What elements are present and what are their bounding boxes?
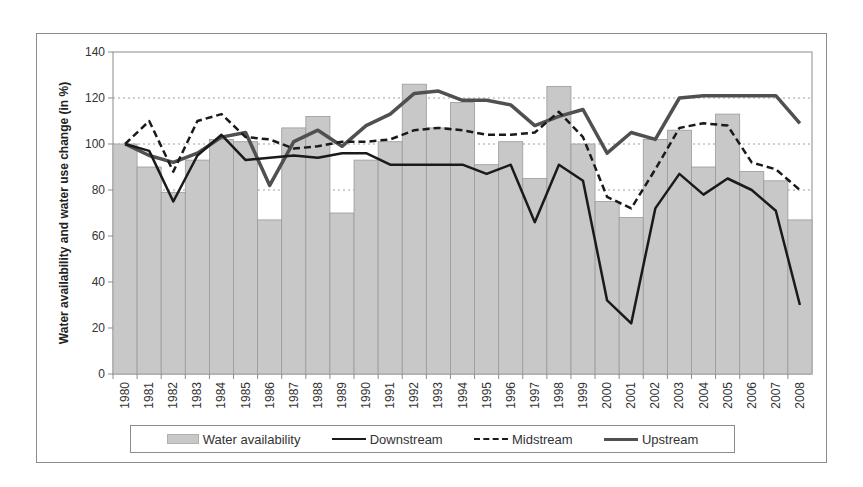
y-tick-label: 20	[92, 321, 106, 335]
bar-2001	[619, 218, 643, 374]
legend-label: Water availability	[203, 432, 301, 447]
x-tick-label: 1994	[456, 382, 470, 409]
x-tick-label: 2008	[793, 382, 807, 409]
legend-label: Upstream	[642, 432, 698, 447]
legend: Water availability Downstream Midstream …	[130, 425, 735, 453]
x-tick-label: 1989	[335, 382, 349, 409]
y-tick-label: 40	[92, 275, 106, 289]
dashed-line-swatch-icon	[474, 438, 508, 440]
x-tick-label: 2002	[648, 382, 662, 409]
legend-label: Downstream	[370, 432, 443, 447]
x-tick-label: 2000	[600, 382, 614, 409]
water-availability-bars	[113, 84, 812, 374]
bar-2005	[716, 114, 740, 374]
x-tick-label: 1985	[239, 382, 253, 409]
y-tick-label: 100	[85, 137, 105, 151]
bar-1995	[475, 165, 499, 374]
x-tick-label: 1980	[118, 382, 132, 409]
x-tick-label: 1987	[287, 382, 301, 409]
x-tick-label: 1996	[504, 382, 518, 409]
bar-2008	[788, 220, 812, 374]
bar-1985	[234, 142, 258, 374]
x-tick-label: 1984	[214, 382, 228, 409]
bar-1991	[378, 142, 402, 374]
combo-chart: 0204060801001201401980198119821983198419…	[0, 0, 863, 487]
x-tick-label: 1995	[480, 382, 494, 409]
x-tick-label: 1992	[407, 382, 421, 409]
bar-1994	[450, 103, 474, 374]
x-tick-label: 2004	[697, 382, 711, 409]
bar-2004	[691, 167, 715, 374]
bar-1992	[402, 84, 426, 374]
bar-2006	[740, 172, 764, 374]
x-tick-label: 2007	[769, 382, 783, 409]
x-tick-label: 1993	[431, 382, 445, 409]
x-tick-label: 2005	[721, 382, 735, 409]
y-tick-label: 60	[92, 229, 106, 243]
bar-1990	[354, 160, 378, 374]
x-tick-label: 1998	[552, 382, 566, 409]
legend-item-midstream: Midstream	[474, 432, 573, 447]
x-tick-label: 1983	[190, 382, 204, 409]
solid-line-swatch-icon	[332, 438, 366, 440]
legend-item-water-availability: Water availability	[167, 432, 301, 447]
bar-1996	[499, 142, 523, 374]
legend-label: Midstream	[512, 432, 573, 447]
bar-1980	[113, 144, 137, 374]
bar-swatch-icon	[167, 434, 199, 444]
bar-1998	[547, 87, 571, 375]
thick-line-swatch-icon	[604, 438, 638, 441]
legend-item-downstream: Downstream	[332, 432, 443, 447]
y-tick-label: 120	[85, 91, 105, 105]
x-tick-label: 1999	[576, 382, 590, 409]
x-tick-label: 1981	[142, 382, 156, 409]
bar-1987	[282, 128, 306, 374]
y-tick-label: 80	[92, 183, 106, 197]
bar-1989	[330, 213, 354, 374]
x-tick-label: 1986	[263, 382, 277, 409]
legend-item-upstream: Upstream	[604, 432, 698, 447]
bar-1981	[137, 167, 161, 374]
bar-1997	[523, 179, 547, 375]
y-tick-label: 0	[98, 367, 105, 381]
bar-2002	[643, 139, 667, 374]
x-tick-label: 1982	[166, 382, 180, 409]
bar-1986	[258, 220, 282, 374]
bar-2000	[595, 202, 619, 375]
x-tick-label: 2001	[624, 382, 638, 409]
bar-1983	[185, 160, 209, 374]
x-tick-label: 2006	[745, 382, 759, 409]
bar-2003	[667, 130, 691, 374]
x-tick-label: 2003	[672, 382, 686, 409]
x-tick-label: 1997	[528, 382, 542, 409]
y-axis-title: Water availability and water use change …	[57, 82, 71, 344]
bar-1982	[161, 192, 185, 374]
y-tick-label: 140	[85, 45, 105, 59]
bar-1999	[571, 144, 595, 374]
x-tick-label: 1990	[359, 382, 373, 409]
x-tick-label: 1991	[383, 382, 397, 409]
x-tick-label: 1988	[311, 382, 325, 409]
bar-1984	[209, 139, 233, 374]
